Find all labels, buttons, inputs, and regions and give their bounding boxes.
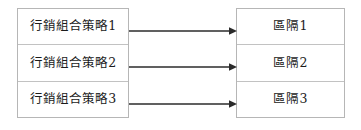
right-row-label-2: 區隔2 bbox=[273, 57, 307, 70]
list-item[interactable]: 行銷組合策略3 bbox=[18, 82, 128, 117]
list-item[interactable]: 區隔1 bbox=[237, 9, 344, 45]
right-row-label-1: 區隔1 bbox=[273, 20, 307, 33]
list-item[interactable]: 行銷組合策略1 bbox=[18, 9, 128, 45]
arrow-right-icon bbox=[129, 61, 237, 73]
arrow-right-icon bbox=[129, 25, 237, 37]
list-item[interactable]: 行銷組合策略2 bbox=[18, 45, 128, 81]
right-row-label-3: 區隔3 bbox=[273, 93, 307, 106]
left-row-label-2: 行銷組合策略2 bbox=[30, 57, 117, 70]
left-row-label-3: 行銷組合策略3 bbox=[30, 93, 117, 106]
list-item[interactable]: 區隔3 bbox=[237, 82, 344, 117]
arrow-right-icon bbox=[129, 98, 237, 110]
left-group-box: 行銷組合策略1 行銷組合策略2 行銷組合策略3 bbox=[17, 8, 129, 118]
left-row-label-1: 行銷組合策略1 bbox=[30, 20, 117, 33]
diagram-canvas: 行銷組合策略1 行銷組合策略2 行銷組合策略3 區隔1 區隔2 區隔3 bbox=[0, 0, 361, 130]
list-item[interactable]: 區隔2 bbox=[237, 45, 344, 81]
right-group-box: 區隔1 區隔2 區隔3 bbox=[236, 8, 345, 118]
